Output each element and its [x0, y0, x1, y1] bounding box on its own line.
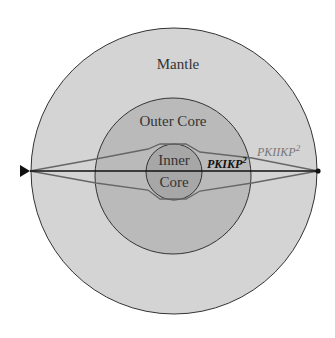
outer-core-label: Outer Core [139, 113, 206, 129]
pkikp-label: PKIKP2 [207, 155, 247, 171]
inner-core-label-line1: Inner [158, 152, 190, 168]
receiver-dot-icon [315, 168, 320, 173]
source-triangle-icon [20, 165, 30, 177]
earth-diagram: Mantle Outer Core Inner Core PKIKP2 PKII… [0, 0, 335, 338]
inner-core-label-line2: Core [159, 174, 189, 190]
pkiikp-label: PKIIKP2 [256, 143, 301, 159]
mantle-label: Mantle [157, 56, 200, 72]
